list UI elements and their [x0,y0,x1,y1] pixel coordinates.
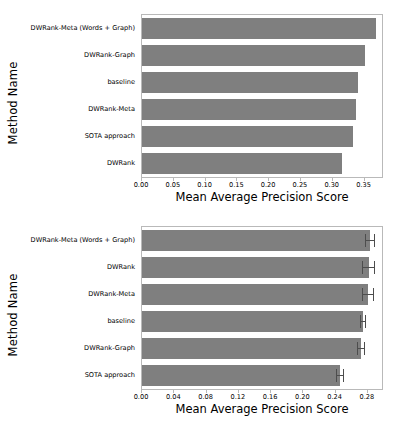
bar [142,257,369,278]
y-tick-label: DWRank-Meta [88,105,135,113]
x-tick-label: 0.08 [198,393,213,401]
bar [142,230,370,251]
y-axis-title-top: Method Name [2,18,24,188]
y-tick-label: baseline [107,78,135,86]
y-tick-label: DWRank [107,159,135,167]
y-tick-label: DWRank [107,263,135,271]
error-bar [336,369,344,382]
bar [142,284,368,305]
x-tick-label: 0.20 [261,181,276,189]
x-tick-label: 0.30 [324,181,339,189]
x-tick-label: 0.24 [327,393,342,401]
bar [142,365,340,386]
x-tick-label: 0.05 [165,181,180,189]
error-bar [362,261,375,274]
x-tick-label: 0.20 [295,393,310,401]
chart-panel-bottom: Method Name DWRank-Meta (Words + Graph)D… [0,212,394,425]
error-bar [357,342,365,355]
bar [142,311,363,332]
error-bar [362,288,373,301]
y-tick-label: baseline [107,317,135,325]
plot-area-top [141,14,383,178]
x-tick-label: 0.25 [293,181,308,189]
error-bar [365,234,375,247]
y-axis-title-bottom: Method Name [2,230,24,400]
y-tick-label: DWRank-Graph [84,51,135,59]
error-bar [360,315,366,328]
x-tick-label: 0.04 [166,393,181,401]
x-tick-label: 0.00 [134,393,149,401]
y-tick-label: SOTA approach [85,132,135,140]
y-tick-label: DWRank-Meta (Words + Graph) [31,24,135,32]
bar [142,18,376,39]
bar [142,153,342,174]
figure: Method Name DWRank-Meta (Words + Graph)D… [0,0,394,425]
x-tick-label: 0.00 [134,181,149,189]
x-tick-label: 0.16 [263,393,278,401]
chart-panel-top: Method Name DWRank-Meta (Words + Graph)D… [0,0,394,212]
y-tick-label: SOTA approach [85,371,135,379]
bar [142,126,353,147]
y-axis-title-top-text: Method Name [6,62,20,145]
y-tick-label: DWRank-Meta (Words + Graph) [31,236,135,244]
bar [142,72,358,93]
plot-area-bottom [141,226,383,390]
x-tick-label: 0.35 [356,181,371,189]
x-axis-title-bottom: Mean Average Precision Score [141,402,383,416]
bar [142,99,356,120]
x-axis-title-top: Mean Average Precision Score [141,190,383,204]
x-tick-label: 0.12 [230,393,245,401]
y-tick-label: DWRank-Meta [88,290,135,298]
x-tick-label: 0.28 [360,393,375,401]
bar [142,338,361,359]
x-tick-label: 0.10 [197,181,212,189]
y-axis-title-bottom-text: Method Name [6,274,20,357]
x-tick-label: 0.15 [229,181,244,189]
bar [142,45,365,66]
y-tick-label: DWRank-Graph [84,344,135,352]
